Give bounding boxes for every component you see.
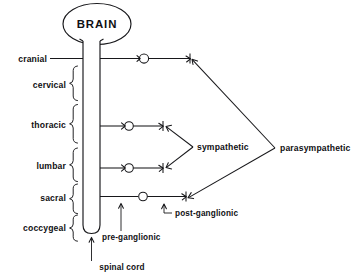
sympathetic-bracket (166, 125, 193, 169)
brace-lumbar (70, 148, 78, 182)
parasympathetic-arm-upper (193, 60, 276, 148)
cranial-ganglion (139, 54, 148, 63)
sacral-ganglion (139, 192, 148, 201)
sympathetic-arm-upper (167, 127, 194, 147)
region-label-cervical: cervical (33, 80, 66, 90)
branch-label-sympathetic: sympathetic (197, 142, 249, 152)
nerve-row-lumbar (100, 163, 163, 173)
lumbar-ganglion (125, 164, 134, 173)
region-label-cranial: cranial (18, 54, 47, 64)
callout-label-pre-ganglionic: pre-ganglionic (102, 233, 161, 242)
region-label-coccygeal: coccygeal (23, 223, 66, 233)
callout-spinal-cord (89, 237, 94, 261)
brace-sacral (70, 184, 78, 214)
branch-label-parasympathetic: parasympathetic (280, 143, 351, 153)
thoracic-ganglion (125, 122, 134, 131)
diagram-canvas: BRAIN cranial cervical thoracic lumbar s… (0, 0, 362, 279)
parasympathetic-bracket (188, 59, 275, 198)
brace-cervical (70, 66, 78, 101)
brace-thoracic (70, 105, 78, 144)
sympathetic-arm-lower (167, 147, 194, 167)
region-label-thoracic: thoracic (31, 120, 66, 130)
nerve-row-cranial (50, 54, 191, 64)
brace-coccygeal (70, 215, 78, 241)
callout-post-ganglionic (162, 204, 172, 213)
brain-label: BRAIN (77, 18, 118, 30)
autonomic-nervous-system-diagram: BRAIN cranial cervical thoracic lumbar s… (0, 0, 362, 279)
region-label-sacral: sacral (40, 193, 66, 203)
parasympathetic-arm-lower (189, 148, 276, 198)
nerve-row-thoracic (100, 121, 163, 131)
region-braces (70, 66, 78, 241)
callout-label-post-ganglionic: post-ganglionic (175, 209, 238, 218)
nerve-row-sacral (100, 192, 186, 202)
callout-pre-ganglionic (119, 203, 124, 231)
region-label-lumbar: lumbar (36, 161, 66, 171)
spinal-cord-body (83, 41, 100, 234)
spinal-cord-label: spinal cord (99, 263, 144, 272)
spinal-cord (80, 39, 104, 234)
